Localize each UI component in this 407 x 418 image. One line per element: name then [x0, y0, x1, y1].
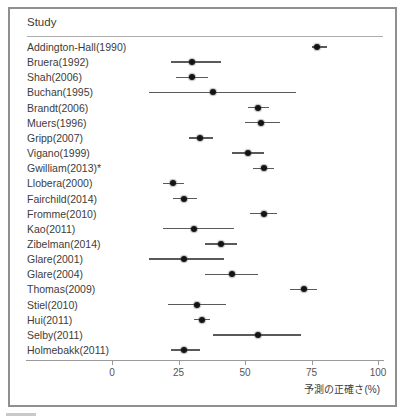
point-estimate-marker: [245, 150, 251, 156]
x-axis-line: [26, 360, 384, 361]
point-estimate-marker: [314, 44, 320, 50]
point-estimate-marker: [258, 120, 264, 126]
point-estimate-marker: [181, 347, 187, 353]
point-estimate-marker: [197, 135, 203, 141]
study-label: Kao(2011): [27, 222, 75, 236]
study-label: Hui(2011): [27, 313, 72, 327]
point-estimate-marker: [301, 286, 307, 292]
ci-line: [163, 228, 235, 229]
study-label: Gripp(2007): [27, 131, 83, 145]
x-axis-tick: [179, 360, 180, 365]
point-estimate-marker: [261, 211, 267, 217]
study-label: Bruera(1992): [27, 55, 89, 69]
study-label: Buchan(1995): [27, 85, 93, 99]
study-label: Addington-Hall(1990): [27, 40, 126, 54]
ci-line: [171, 61, 222, 62]
study-label: Glare(2001): [27, 252, 83, 266]
study-label: Stiel(2010): [27, 298, 78, 312]
x-axis-tick-label: 0: [109, 367, 115, 378]
point-estimate-marker: [229, 271, 235, 277]
study-label: Fromme(2010): [27, 207, 96, 221]
study-label: Vigano(1999): [27, 146, 90, 160]
x-axis-tick-label: 25: [173, 367, 184, 378]
point-estimate-marker: [261, 165, 267, 171]
study-label: Llobera(2000): [27, 176, 92, 190]
x-axis-tick: [378, 360, 379, 365]
point-estimate-marker: [255, 105, 261, 111]
x-axis-tick-label: 50: [239, 367, 250, 378]
header-divider: [27, 36, 383, 37]
forest-plot-figure: Study Addington-Hall(1990)Bruera(1992)Sh…: [0, 0, 407, 418]
study-label: Muers(1996): [27, 116, 87, 130]
x-axis-tick: [312, 360, 313, 365]
point-estimate-marker: [181, 196, 187, 202]
point-estimate-marker: [194, 302, 200, 308]
study-label: Fairchild(2014): [27, 192, 97, 206]
x-axis-tick-label: 100: [370, 367, 387, 378]
bottom-left-artifact: [6, 413, 36, 416]
study-label: Glare(2004): [27, 267, 83, 281]
study-label: Shah(2006): [27, 70, 82, 84]
point-estimate-marker: [189, 59, 195, 65]
ci-line: [149, 92, 295, 93]
study-label: Gwilliam(2013)*: [27, 161, 101, 175]
x-axis-tick-label: 75: [306, 367, 317, 378]
point-estimate-marker: [181, 256, 187, 262]
x-axis-tick: [245, 360, 246, 365]
study-label: Zibelman(2014): [27, 237, 101, 251]
study-label: Selby(2011): [27, 328, 83, 342]
study-column-header: Study: [27, 16, 56, 28]
study-label: Thomas(2009): [27, 282, 95, 296]
x-axis-tick: [112, 360, 113, 365]
study-label: Holmebakk(2011): [27, 343, 109, 357]
study-label: Brandt(2006): [27, 101, 88, 115]
point-estimate-marker: [218, 241, 224, 247]
x-axis-title: 予測の正確さ(%): [304, 381, 380, 396]
